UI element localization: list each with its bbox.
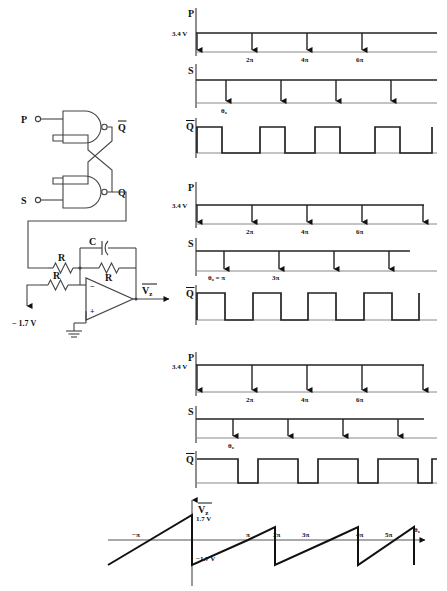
p-row-2-tick-0: 2π [246,228,254,236]
s-row-3-tick-0: θ₀ [228,442,234,450]
label-resistor-bottom: R [53,270,61,281]
label-output-qbar: Q [118,122,126,133]
label-resistor-feedback: R [105,272,113,283]
sawtooth-tick-0: −π [132,531,140,539]
p-row-3-tick-0: 2π [246,396,254,404]
s-row-1-signal-label: S [188,65,194,76]
p-row-1-level-label: 3.4 V [172,30,187,38]
sawtooth-tick-1: π [246,531,250,539]
opamp-inverting-label: − [90,282,95,291]
s-row-1-tick-0: θ₀ [221,107,227,115]
qbar-row-3-signal-label: Q [186,454,194,465]
p-row-2-tick-1: 4π [301,228,309,236]
sawtooth-tick-3: 3π [302,531,310,539]
opamp-noninverting-label: + [90,307,95,316]
p-row-1-tick-0: 2π [246,56,254,64]
qbar-row-1-signal-label: Q [186,121,194,132]
sawtooth-tick-4: 4π [356,531,364,539]
sawtooth-ytop-label: 1.7 V [196,515,211,523]
technical-figure-svg: P Q S Q [0,0,447,591]
s-row-2-tick-1: 3π [272,274,280,282]
p-row-3-tick-2: 6π [356,396,364,404]
label-capacitor: C [89,236,96,247]
label-resistor-top: R [58,252,66,263]
label-input-s: S [21,195,27,206]
s-row-2-tick-0: θ₀ = π [208,274,225,282]
p-row-3-tick-1: 4π [301,396,309,404]
p-row-3-signal-label: P [188,352,194,363]
sawtooth-tick-2: 2π [273,531,281,539]
qbar-row-2-signal-label: Q [186,288,194,299]
s-row-3-signal-label: S [188,406,194,417]
figure-canvas: P Q S Q [0,0,447,591]
sawtooth-tick-5: 5π [385,531,393,539]
p-row-2-tick-2: 6π [356,228,364,236]
label-input-p: P [21,114,27,125]
background [0,0,447,591]
p-row-2-level-label: 3.4 V [172,202,187,210]
p-row-1-tick-2: 6π [356,56,364,64]
sawtooth-ybottom-label: −1.7 V [196,555,215,563]
s-row-2-signal-label: S [188,238,194,249]
p-row-2-signal-label: P [188,182,194,193]
sawtooth-xaxis-label: θ₀ [414,526,420,534]
p-row-3-level-label: 3.4 V [172,363,187,371]
junction-dot-output [134,297,137,300]
label-supply-negative: − 1.7 V [12,319,36,328]
p-row-1-tick-1: 4π [301,56,309,64]
p-row-1-signal-label: P [188,8,194,19]
